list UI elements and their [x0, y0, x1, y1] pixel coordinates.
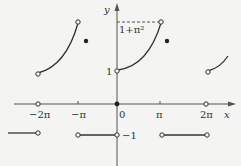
origin-label: 0: [119, 109, 125, 120]
open-point: [206, 70, 210, 74]
open-point: [115, 133, 119, 137]
open-point: [205, 133, 209, 137]
x-tick-label-pi: π: [156, 109, 163, 120]
open-point: [36, 131, 40, 135]
y-axis-arrow-icon: [115, 3, 120, 11]
open-point: [204, 102, 208, 106]
x-axis-arrow-icon: [228, 102, 236, 107]
open-point: [76, 133, 80, 137]
function-graph: y x 0 −2π −π π 2π 1 1+π² −1: [0, 0, 241, 166]
filled-point-origin: [115, 102, 120, 107]
x-tick-label-2pi: 2π: [200, 109, 213, 120]
open-point: [160, 133, 164, 137]
y-axis-label: y: [103, 4, 110, 15]
curve-right: [208, 56, 228, 71]
y-tick-label-neg-1: −1: [122, 130, 137, 141]
x-tick-label-neg-pi: −π: [71, 109, 86, 120]
open-point: [76, 20, 80, 24]
open-point: [36, 72, 40, 76]
filled-point: [165, 39, 169, 43]
open-point: [159, 20, 163, 24]
x-axis-label: x: [224, 109, 230, 120]
open-point: [115, 69, 119, 73]
x-tick-label-neg-2pi: −2π: [29, 109, 51, 120]
graph-canvas: y x 0 −2π −π π 2π 1 1+π² −1: [0, 0, 241, 166]
y-tick-label-1: 1: [106, 66, 112, 77]
curve-left: [38, 23, 78, 73]
filled-point: [84, 39, 88, 43]
y-tick-label-1-plus-pi-squared: 1+π²: [119, 24, 144, 35]
open-point: [36, 102, 40, 106]
